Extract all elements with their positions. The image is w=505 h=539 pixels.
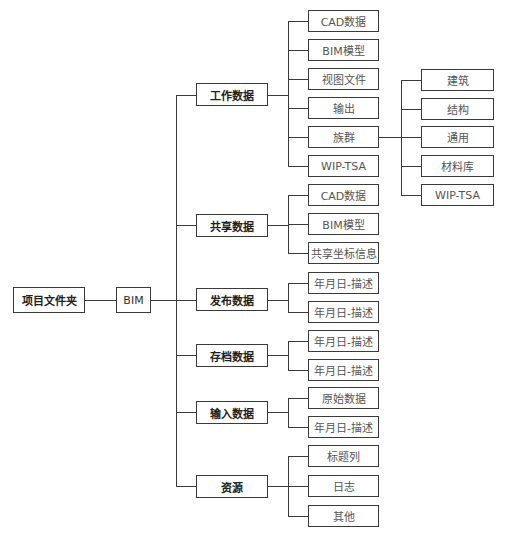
root-folder-node: 项目文件夹 xyxy=(13,287,85,313)
connector xyxy=(176,300,196,301)
family-architecture: 建筑 xyxy=(421,69,494,91)
connector xyxy=(401,195,421,196)
group-archive-data: 存档数据 xyxy=(196,344,268,367)
connector xyxy=(401,80,421,81)
connector xyxy=(288,341,289,370)
connector xyxy=(268,300,288,301)
leaf-bim-model: BIM模型 xyxy=(308,39,379,61)
connector xyxy=(288,108,308,109)
connector xyxy=(288,253,308,254)
connector xyxy=(288,50,308,51)
connector xyxy=(268,486,288,487)
connector xyxy=(288,398,308,399)
connector xyxy=(288,283,308,284)
connector xyxy=(401,166,421,167)
connector xyxy=(288,195,308,196)
connector-spine xyxy=(176,95,177,486)
connector xyxy=(176,225,196,226)
leaf-date-description: 年月日-描述 xyxy=(308,416,379,438)
family-material-library: 材料库 xyxy=(421,155,494,177)
connector xyxy=(268,95,288,96)
family-general: 通用 xyxy=(421,126,494,148)
group-input-data: 输入数据 xyxy=(196,401,268,424)
leaf-bim-model: BIM模型 xyxy=(308,213,379,235)
connector xyxy=(288,398,289,427)
connector xyxy=(268,355,288,356)
leaf-raw-data: 原始数据 xyxy=(308,387,379,409)
connector xyxy=(288,21,308,22)
connector xyxy=(288,341,308,342)
leaf-shared-coordinates: 共享坐标信息 xyxy=(308,242,379,264)
leaf-family: 族群 xyxy=(308,126,379,148)
leaf-date-description: 年月日-描述 xyxy=(308,330,379,352)
connector xyxy=(288,486,308,487)
connector xyxy=(288,224,308,225)
leaf-cad-data: CAD数据 xyxy=(308,184,379,206)
connector xyxy=(288,427,308,428)
family-wip-tsa: WIP-TSA xyxy=(421,184,494,206)
connector xyxy=(268,412,288,413)
leaf-log: 日志 xyxy=(308,475,379,497)
group-published-data: 发布数据 xyxy=(196,288,268,311)
leaf-date-description: 年月日-描述 xyxy=(308,359,379,381)
connector xyxy=(288,166,308,167)
bim-node: BIM xyxy=(116,287,151,313)
leaf-other: 其他 xyxy=(308,505,379,527)
leaf-cad-data: CAD数据 xyxy=(308,10,379,32)
group-work-data: 工作数据 xyxy=(196,83,268,106)
leaf-date-description: 年月日-描述 xyxy=(308,301,379,323)
family-structure: 结构 xyxy=(421,98,494,120)
connector xyxy=(176,486,196,487)
leaf-view-files: 视图文件 xyxy=(308,68,379,90)
connector xyxy=(176,355,196,356)
connector xyxy=(288,79,308,80)
connector xyxy=(401,109,421,110)
connector xyxy=(176,412,196,413)
connector xyxy=(401,137,421,138)
connector xyxy=(151,300,176,301)
group-shared-data: 共享数据 xyxy=(196,214,268,237)
connector xyxy=(379,137,401,138)
connector xyxy=(288,370,308,371)
leaf-title-block: 标题列 xyxy=(308,445,379,467)
connector xyxy=(288,283,289,312)
connector xyxy=(288,137,308,138)
connector xyxy=(288,516,308,517)
leaf-output: 输出 xyxy=(308,97,379,119)
connector xyxy=(268,225,288,226)
connector xyxy=(176,95,196,96)
connector xyxy=(288,21,289,166)
leaf-date-description: 年月日-描述 xyxy=(308,272,379,294)
connector xyxy=(288,456,308,457)
group-resources: 资源 xyxy=(196,475,268,498)
connector xyxy=(85,300,116,301)
connector xyxy=(288,312,308,313)
leaf-wip-tsa: WIP-TSA xyxy=(308,155,379,177)
